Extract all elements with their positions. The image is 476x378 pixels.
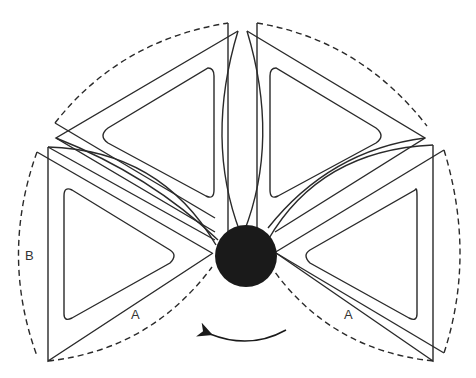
right-blade-triangle [276, 145, 433, 361]
central-hub [215, 225, 277, 287]
label-a-left: A [131, 307, 140, 322]
right-blade-inner [306, 189, 417, 319]
top-right-blade-triangle [247, 31, 425, 232]
left-blade-dashed-lower [48, 267, 212, 361]
left-blade-triangle [48, 147, 213, 361]
top-left-blade [55, 23, 238, 240]
blade-rotation-diagram: B A A [0, 0, 476, 378]
rotation-arrow-icon [210, 330, 286, 341]
label-b: B [25, 248, 34, 263]
top-right-blade-dashed-arc [257, 23, 427, 126]
left-blade [19, 147, 217, 361]
right-blade [268, 145, 460, 361]
right-blade-dashed-arc [444, 150, 460, 353]
label-a-right: A [344, 307, 353, 322]
top-left-blade-inner [103, 68, 214, 197]
